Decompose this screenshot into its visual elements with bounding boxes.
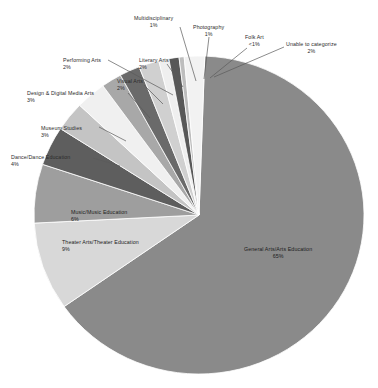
pie-slice-label: Visual Arts2% <box>117 78 143 92</box>
pie-slice-label-percent: 6% <box>71 216 127 223</box>
pie-slice-label: Literary Arts2% <box>139 57 169 71</box>
pie-slice-label-name: Theater Arts/Theater Education <box>62 239 139 246</box>
pie-slice-label-percent: 2% <box>117 85 143 92</box>
pie-slice-label-percent: 1% <box>193 31 224 38</box>
pie-slice-label-name: Music/Music Education <box>71 209 127 216</box>
pie-slice-label-name: Museum Studies <box>41 125 82 132</box>
pie-slice-label: Unable to categorize2% <box>286 41 337 55</box>
pie-slice-label-percent: 2% <box>286 48 337 55</box>
pie-slice-label-name: Design & Digital Media Arts <box>27 90 94 97</box>
pie-slice-label: Multidisciplinary1% <box>134 15 173 29</box>
pie-slice-label: Museum Studies3% <box>41 125 82 139</box>
pie-slice-label-percent: 2% <box>139 64 169 71</box>
pie-slice-label-name: Folk Art <box>245 34 264 41</box>
pie-slice-label-name: Visual Arts <box>117 78 143 85</box>
pie-slice-label-name: Photography <box>193 24 224 31</box>
pie-slice-label-name: Unable to categorize <box>286 41 337 48</box>
pie-chart-figure: General Arts/Arts Education65%Theater Ar… <box>0 0 378 388</box>
pie-slice-label: Photography1% <box>193 24 224 38</box>
pie-slice-label: Folk Art<1% <box>245 34 264 48</box>
pie-slice-label-percent: 65% <box>244 253 312 260</box>
pie-slice-label-percent: 2% <box>63 64 101 71</box>
pie-slice-label-percent: 3% <box>41 132 82 139</box>
pie-slice-label-name: Literary Arts <box>139 57 169 64</box>
pie-slice-label-percent: <1% <box>245 41 264 48</box>
pie-slice-label-percent: 9% <box>62 246 139 253</box>
pie-slice-label: Dance/Dance Education4% <box>11 154 70 168</box>
pie-slice-label-percent: 3% <box>27 97 94 104</box>
pie-slice-label-percent: 1% <box>134 22 173 29</box>
pie-slice-label: Music/Music Education6% <box>71 209 127 223</box>
pie-slice-label-name: Multidisciplinary <box>134 15 173 22</box>
pie-chart-svg <box>0 0 378 388</box>
pie-slice-label-name: General Arts/Arts Education <box>244 246 312 253</box>
pie-slice-label: General Arts/Arts Education65% <box>244 246 312 260</box>
pie-slice-label: Theater Arts/Theater Education9% <box>62 239 139 253</box>
pie-slice-label-percent: 4% <box>11 161 70 168</box>
pie-slice-label: Performing Arts2% <box>63 57 101 71</box>
pie-slice-label-name: Performing Arts <box>63 57 101 64</box>
pie-slice-label: Design & Digital Media Arts3% <box>27 90 94 104</box>
pie-slice-label-name: Dance/Dance Education <box>11 154 70 161</box>
